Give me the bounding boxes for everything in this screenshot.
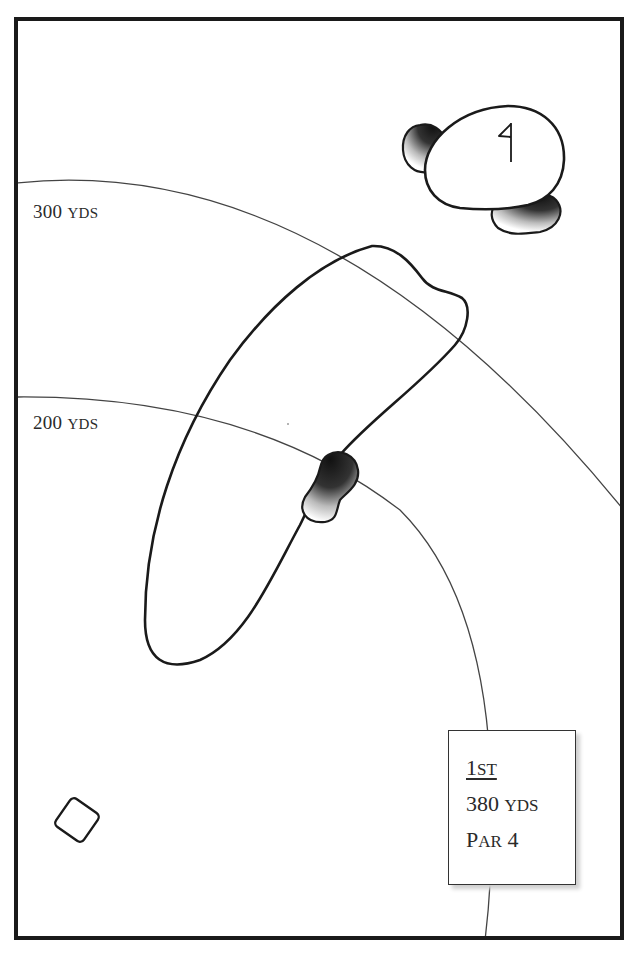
yardage-unit: YDS <box>67 205 98 221</box>
yardage-value: 300 <box>33 201 62 222</box>
yardage-unit: YDS <box>67 416 98 432</box>
hole-info-box: 1ST 380 YDS PAR 4 <box>448 730 576 885</box>
hole-distance: 380 YDS <box>466 787 575 823</box>
yardage-label-300: 300 YDS <box>33 201 98 223</box>
hole-number: 1ST <box>466 751 575 787</box>
hole-par: PAR 4 <box>466 823 575 859</box>
yardage-value: 200 <box>33 412 62 433</box>
yardage-label-200: 200 YDS <box>33 412 98 434</box>
